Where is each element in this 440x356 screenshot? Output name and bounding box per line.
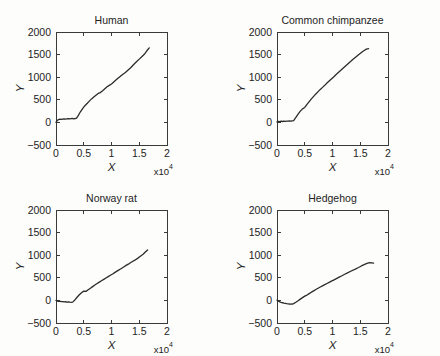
- y-tick-label: 1500: [249, 226, 273, 238]
- y-axis-label: Y: [14, 83, 26, 92]
- y-tick-label: 0: [45, 294, 51, 306]
- y-tick-label: 2000: [249, 204, 273, 216]
- y-tick-label: 1000: [28, 249, 52, 261]
- y-axis-label: Y: [14, 261, 26, 270]
- x-tick-label: 1: [330, 147, 336, 159]
- x-tick-label: 2: [164, 147, 170, 159]
- y-tick-label: −500: [27, 139, 51, 151]
- panel-title: Human: [95, 14, 129, 26]
- y-tick-label: 2000: [28, 26, 52, 38]
- x-tick-label: 1.5: [132, 325, 147, 337]
- y-tick-label: 1500: [28, 226, 52, 238]
- x-tick-label: 0: [274, 147, 280, 159]
- y-tick-label: 500: [254, 271, 272, 283]
- x-tick-label: 1: [330, 325, 336, 337]
- x-axis-label: X: [328, 161, 338, 173]
- plot-frame: [277, 210, 388, 323]
- chart-panel-bottom-right: Hedgehog−500050010001500200000.511.52XYx…: [221, 178, 440, 356]
- plot-frame: [277, 32, 388, 145]
- y-tick-label: −500: [248, 139, 272, 151]
- y-tick-label: 1000: [249, 71, 273, 83]
- y-tick-label: 1000: [249, 249, 273, 261]
- panel-title: Common chimpanzee: [281, 14, 383, 26]
- x-axis-multiplier: x104: [154, 340, 173, 355]
- x-axis-label: X: [328, 339, 338, 351]
- x-axis-multiplier: x104: [154, 162, 173, 177]
- x-tick-label: 1: [109, 147, 115, 159]
- data-series-line: [56, 48, 149, 123]
- x-tick-label: 1.5: [353, 147, 368, 159]
- chart-panel-bottom-left: Norway rat−500050010001500200000.511.52X…: [0, 178, 221, 356]
- y-tick-label: 0: [266, 116, 272, 128]
- y-tick-label: 1500: [28, 48, 52, 60]
- x-tick-label: 0.5: [76, 325, 91, 337]
- x-tick-label: 0.5: [297, 147, 312, 159]
- data-series-line: [56, 250, 148, 302]
- x-tick-label: 1: [109, 325, 115, 337]
- figure-container: Human−500050010001500200000.511.52XYx104…: [0, 0, 440, 356]
- x-axis-label: X: [107, 339, 117, 351]
- y-tick-label: 0: [45, 116, 51, 128]
- x-axis-label: X: [107, 161, 117, 173]
- x-tick-label: 0.5: [297, 325, 312, 337]
- y-axis-label: Y: [235, 261, 247, 270]
- chart-panel-top-left: Human−500050010001500200000.511.52XYx104: [0, 0, 221, 178]
- x-tick-label: 2: [164, 325, 170, 337]
- y-tick-label: 0: [266, 294, 272, 306]
- x-axis-multiplier: x104: [375, 162, 394, 177]
- x-tick-label: 0: [53, 147, 59, 159]
- y-tick-label: 1500: [249, 48, 273, 60]
- x-tick-label: 0: [53, 325, 59, 337]
- x-tick-label: 0: [274, 325, 280, 337]
- data-series-line: [277, 263, 374, 304]
- y-tick-label: 500: [254, 93, 272, 105]
- x-tick-label: 1.5: [353, 325, 368, 337]
- x-tick-label: 2: [385, 325, 391, 337]
- y-tick-label: 1000: [28, 71, 52, 83]
- y-tick-label: −500: [27, 317, 51, 329]
- panel-title: Hedgehog: [308, 192, 357, 204]
- y-tick-label: 500: [33, 271, 51, 283]
- y-axis-label: Y: [235, 83, 247, 92]
- data-series-line: [277, 49, 369, 122]
- y-tick-label: 500: [33, 93, 51, 105]
- x-axis-multiplier: x104: [375, 340, 394, 355]
- plot-frame: [56, 32, 167, 145]
- x-tick-label: 2: [385, 147, 391, 159]
- x-tick-label: 1.5: [132, 147, 147, 159]
- y-tick-label: 2000: [249, 26, 273, 38]
- x-tick-label: 0.5: [76, 147, 91, 159]
- y-tick-label: −500: [248, 317, 272, 329]
- chart-panel-top-right: Common chimpanzee−500050010001500200000.…: [221, 0, 440, 178]
- plot-frame: [56, 210, 167, 323]
- panel-title: Norway rat: [86, 192, 137, 204]
- y-tick-label: 2000: [28, 204, 52, 216]
